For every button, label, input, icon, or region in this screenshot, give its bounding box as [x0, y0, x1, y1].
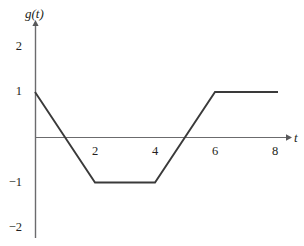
plot-area [0, 0, 304, 246]
y-tick-label-minus-1: −1 [0, 176, 22, 189]
x-axis [35, 134, 292, 141]
figure-container: g(t) t 2 1 −1 −2 2 4 6 8 [0, 0, 304, 246]
y-axis [32, 20, 38, 238]
y-tick-label-2: 2 [0, 40, 22, 53]
x-axis-arrowhead [286, 134, 292, 141]
y-tick-label-1: 1 [0, 85, 22, 98]
y-axis-label: g(t) [25, 7, 44, 20]
x-tick-label-4: 4 [144, 145, 166, 158]
x-axis-label: t [294, 131, 298, 144]
x-tick-label-2: 2 [84, 145, 106, 158]
x-tick-label-6: 6 [204, 145, 226, 158]
x-tick-label-8: 8 [264, 145, 286, 158]
y-tick-label-minus-2: −2 [0, 221, 22, 234]
